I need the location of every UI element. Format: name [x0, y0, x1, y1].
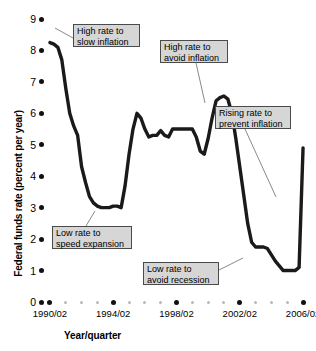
annotation-low-rate-speed-expansion: Low rate to speed expansion — [52, 226, 132, 249]
x-tick-dot-minor — [254, 301, 257, 304]
x-tick-label: 2006/02 — [276, 308, 316, 319]
x-tick-label: 1990/02 — [23, 308, 77, 319]
x-tick-label: 1994/02 — [86, 308, 140, 319]
x-tick-dot-minor — [207, 301, 210, 304]
leader-line-rising-rate-prevent-inflation — [245, 129, 276, 197]
annotation-high-rate-avoid-inflation: High rate to avoid inflation — [160, 40, 228, 63]
annotation-rising-rate-prevent-inflation: Rising rate to prevent inflation — [215, 106, 291, 129]
leader-line-high-rate-avoid-inflation — [196, 63, 205, 103]
chart-container: Federal funds rate (percent per year) 98… — [0, 0, 316, 351]
x-tick-dot-minor — [286, 301, 289, 304]
x-tick-dot — [111, 300, 116, 305]
x-tick-dot-minor — [80, 301, 83, 304]
annotation-high-rate-slow-inflation: High rate to slow inflation — [73, 24, 140, 47]
x-tick-dot-minor — [159, 301, 162, 304]
x-tick-label: 2002/02 — [213, 308, 267, 319]
annotation-low-rate-avoid-recession: Low rate to avoid recession — [143, 262, 219, 285]
leader-line-low-rate-speed-expansion — [86, 211, 95, 226]
x-tick-dot — [237, 300, 242, 305]
x-tick-dot-minor — [64, 301, 67, 304]
x-tick-dot-minor — [128, 301, 131, 304]
x-tick-dot — [174, 300, 179, 305]
x-tick-dot-minor — [270, 301, 273, 304]
leader-line-low-rate-avoid-recession — [219, 258, 243, 270]
leader-line-high-rate-slow-inflation — [55, 28, 73, 38]
x-tick-dot-minor — [191, 301, 194, 304]
plot-area — [0, 0, 316, 351]
x-tick-dot — [301, 300, 306, 305]
x-axis-title: Year/quarter — [64, 330, 121, 341]
x-tick-dot-minor — [96, 301, 99, 304]
x-tick-label: 1998/02 — [150, 308, 204, 319]
